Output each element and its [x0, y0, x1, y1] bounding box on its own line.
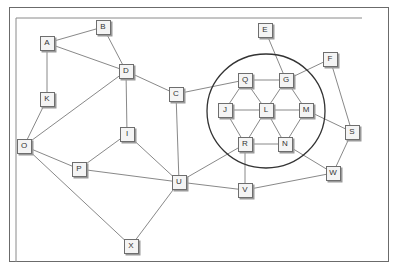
- node-label: G: [283, 76, 289, 84]
- node-label: O: [21, 142, 27, 150]
- node-label: P: [76, 165, 81, 173]
- node-F: F: [323, 52, 338, 67]
- node-label: I: [126, 130, 128, 138]
- node-E: E: [258, 23, 273, 38]
- node-O: O: [17, 139, 32, 154]
- node-label: C: [173, 90, 179, 98]
- node-R: R: [238, 137, 253, 152]
- node-label: A: [44, 39, 49, 47]
- node-label: S: [349, 128, 354, 136]
- edge-U-R: [179, 144, 245, 182]
- node-label: L: [264, 106, 268, 114]
- node-G: G: [279, 73, 294, 88]
- node-label: V: [242, 186, 247, 194]
- node-label: M: [303, 106, 310, 114]
- node-L: L: [259, 103, 274, 118]
- node-label: U: [176, 178, 182, 186]
- edge-D-O: [24, 71, 126, 146]
- node-N: N: [278, 137, 293, 152]
- edge-U-X: [131, 182, 179, 246]
- edge-F-S: [330, 59, 352, 132]
- edge-V-W: [245, 173, 333, 190]
- edges-group: [24, 27, 352, 246]
- node-label: N: [282, 140, 288, 148]
- node-label: D: [123, 67, 129, 75]
- edge-A-D: [47, 43, 126, 71]
- node-label: W: [329, 169, 337, 177]
- node-X: X: [124, 239, 139, 254]
- edge-C-U: [176, 94, 179, 182]
- node-A: A: [40, 36, 55, 51]
- node-S: S: [345, 125, 360, 140]
- node-B: B: [96, 20, 111, 35]
- node-label: J: [223, 106, 227, 114]
- node-C: C: [169, 87, 184, 102]
- node-D: D: [119, 64, 134, 79]
- node-label: Q: [242, 76, 248, 84]
- edge-U-V: [179, 182, 245, 190]
- node-J: J: [218, 103, 233, 118]
- node-label: B: [100, 23, 105, 31]
- node-label: F: [328, 55, 333, 63]
- node-I: I: [120, 127, 135, 142]
- node-M: M: [299, 103, 314, 118]
- node-V: V: [238, 183, 253, 198]
- node-P: P: [72, 162, 87, 177]
- node-label: E: [262, 26, 267, 34]
- node-W: W: [326, 166, 341, 181]
- edge-D-I: [126, 71, 127, 134]
- node-Q: Q: [238, 73, 253, 88]
- node-label: K: [44, 95, 49, 103]
- node-label: X: [128, 242, 133, 250]
- node-K: K: [40, 92, 55, 107]
- edge-P-U: [79, 169, 179, 182]
- network-graph-canvas: [0, 0, 397, 268]
- node-label: R: [242, 140, 248, 148]
- node-U: U: [172, 175, 187, 190]
